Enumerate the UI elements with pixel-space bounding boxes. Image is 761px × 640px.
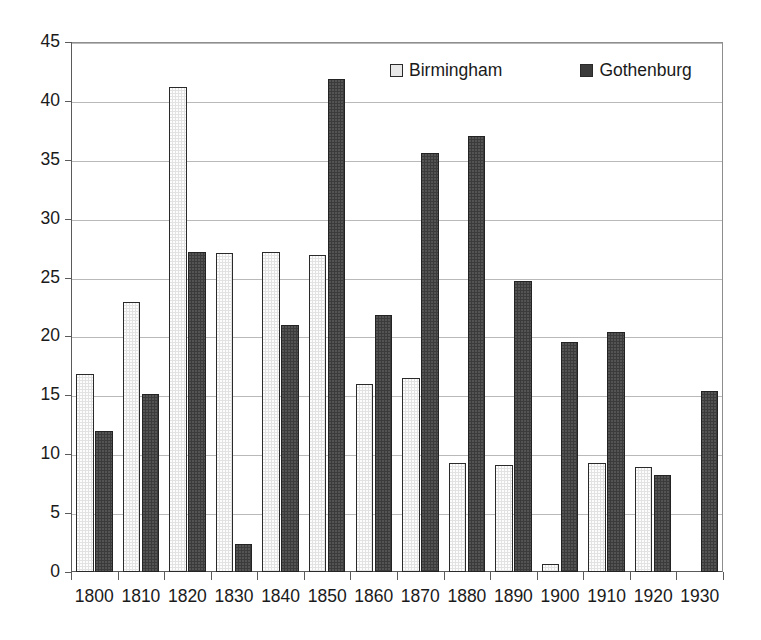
x-tick-mark-13 — [676, 572, 677, 580]
legend-swatch-icon-gothenburg — [580, 64, 593, 77]
bar-birmingham-1850 — [309, 255, 327, 572]
y-tick-label-0: 0 — [14, 563, 60, 581]
bar-gothenburg-1880 — [468, 136, 486, 572]
x-tick-mark-5 — [304, 572, 305, 580]
bar-gothenburg-1930 — [701, 391, 719, 572]
bar-chart: 051015202530354045 180018101820183018401… — [0, 0, 761, 640]
y-axis: 051015202530354045 — [8, 42, 60, 572]
x-tick-label-1840: 1840 — [257, 586, 304, 606]
bar-gothenburg-1830 — [235, 544, 253, 572]
y-tick-label-35: 35 — [14, 151, 60, 169]
x-tick-mark-1 — [118, 572, 119, 580]
y-tick-label-20: 20 — [14, 327, 60, 345]
bar-gothenburg-1860 — [375, 315, 393, 572]
x-tick-mark-6 — [350, 572, 351, 580]
legend-label-gothenburg: Gothenburg — [599, 61, 691, 79]
x-tick-mark-2 — [164, 572, 165, 580]
bar-birmingham-1810 — [123, 302, 141, 572]
bar-birmingham-1830 — [216, 253, 234, 572]
x-tick-mark-14 — [723, 572, 724, 580]
x-tick-label-1870: 1870 — [397, 586, 444, 606]
bar-gothenburg-1920 — [654, 475, 672, 572]
chart-legend: BirminghamGothenburg — [390, 61, 692, 79]
x-tick-label-1890: 1890 — [490, 586, 537, 606]
x-tick-mark-4 — [257, 572, 258, 580]
x-tick-label-1920: 1920 — [630, 586, 677, 606]
x-tick-label-1820: 1820 — [164, 586, 211, 606]
x-tick-mark-0 — [71, 572, 72, 580]
x-tick-label-1810: 1810 — [118, 586, 165, 606]
x-tick-mark-10 — [537, 572, 538, 580]
bar-birmingham-1840 — [262, 252, 280, 572]
x-tick-label-1830: 1830 — [211, 586, 258, 606]
legend-item-gothenburg[interactable]: Gothenburg — [580, 61, 691, 79]
legend-swatch-icon-birmingham — [390, 64, 403, 77]
bar-gothenburg-1900 — [561, 342, 579, 572]
bars-group — [71, 42, 723, 572]
bar-birmingham-1890 — [495, 465, 513, 572]
x-tick-label-1900: 1900 — [537, 586, 584, 606]
y-tick-label-45: 45 — [14, 33, 60, 51]
x-tick-mark-9 — [490, 572, 491, 580]
bar-gothenburg-1840 — [281, 325, 299, 572]
bar-birmingham-1900 — [542, 564, 560, 572]
bar-gothenburg-1870 — [421, 153, 439, 572]
x-tick-mark-3 — [211, 572, 212, 580]
y-tick-label-15: 15 — [14, 386, 60, 404]
bar-gothenburg-1820 — [188, 252, 206, 572]
x-tick-mark-12 — [630, 572, 631, 580]
x-tick-mark-11 — [583, 572, 584, 580]
legend-item-birmingham[interactable]: Birmingham — [390, 61, 502, 79]
y-tick-label-25: 25 — [14, 269, 60, 287]
y-tick-label-5: 5 — [14, 504, 60, 522]
x-tick-label-1800: 1800 — [71, 586, 118, 606]
x-tick-mark-7 — [397, 572, 398, 580]
x-tick-mark-8 — [444, 572, 445, 580]
bar-birmingham-1910 — [588, 463, 606, 573]
bar-gothenburg-1800 — [95, 431, 113, 572]
bar-gothenburg-1850 — [328, 79, 346, 573]
legend-label-birmingham: Birmingham — [409, 61, 502, 79]
x-tick-label-1850: 1850 — [304, 586, 351, 606]
bar-gothenburg-1890 — [514, 281, 532, 572]
y-tick-label-40: 40 — [14, 92, 60, 110]
x-tick-label-1860: 1860 — [350, 586, 397, 606]
bar-gothenburg-1810 — [142, 394, 160, 572]
bar-birmingham-1800 — [76, 374, 94, 572]
x-tick-label-1880: 1880 — [444, 586, 491, 606]
x-tick-label-1930: 1930 — [676, 586, 723, 606]
y-tick-label-30: 30 — [14, 210, 60, 228]
bar-birmingham-1820 — [169, 87, 187, 572]
bar-birmingham-1880 — [449, 463, 467, 573]
y-tick-label-10: 10 — [14, 445, 60, 463]
x-tick-label-1910: 1910 — [583, 586, 630, 606]
bar-birmingham-1870 — [402, 378, 420, 572]
bar-birmingham-1920 — [635, 467, 653, 572]
bar-gothenburg-1910 — [607, 332, 625, 572]
bar-birmingham-1860 — [356, 384, 374, 572]
